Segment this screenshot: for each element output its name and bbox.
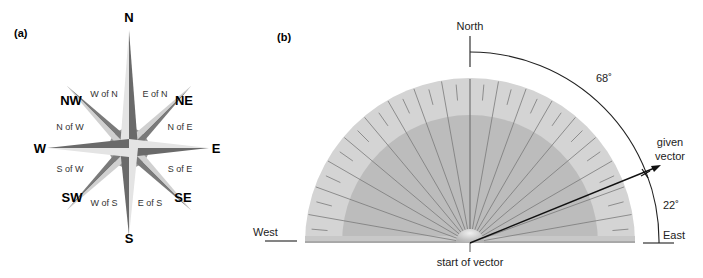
label-w-of-s: W of S — [90, 198, 117, 208]
protractor-diagram: (b) North West East 68˚ 22˚ given vector — [253, 20, 685, 268]
label-west: West — [253, 226, 278, 238]
panel-a-label: (a) — [14, 27, 28, 39]
given-vector-label-2: vector — [655, 150, 685, 162]
diagram-canvas: (a) N NE E SE S SW W NW W of N E of N N … — [0, 0, 703, 278]
label-s-of-e: S of E — [168, 164, 193, 174]
label-se: SE — [174, 190, 192, 205]
angle-22-label: 22˚ — [663, 199, 679, 211]
label-n-of-e: N of E — [167, 122, 192, 132]
label-e: E — [212, 141, 221, 156]
label-e-of-s: E of S — [138, 198, 163, 208]
label-north: North — [457, 20, 484, 32]
label-east: East — [663, 229, 685, 241]
angle-68-label: 68˚ — [596, 72, 612, 84]
arrowhead-icon — [651, 165, 661, 172]
start-of-vector-label: start of vector — [437, 256, 504, 268]
compass-rose: (a) N NE E SE S SW W NW W of N E of N N … — [14, 10, 221, 246]
label-w-of-n: W of N — [90, 89, 118, 99]
panel-b-label: (b) — [277, 31, 291, 43]
label-nw: NW — [60, 93, 82, 108]
label-n: N — [124, 10, 133, 25]
label-ne: NE — [175, 93, 193, 108]
given-vector-label-1: given — [657, 136, 683, 148]
label-s: S — [125, 231, 134, 246]
label-s-of-w: S of W — [56, 164, 84, 174]
label-n-of-w: N of W — [56, 122, 84, 132]
label-e-of-n: E of N — [142, 89, 167, 99]
label-sw: SW — [62, 190, 84, 205]
label-w: W — [34, 141, 47, 156]
